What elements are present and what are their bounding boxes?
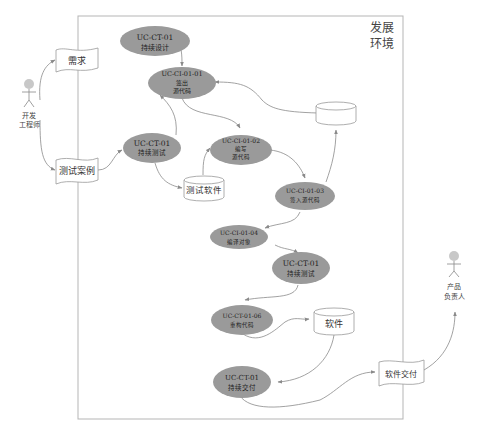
svg-text:持续测试: 持续测试: [138, 148, 166, 157]
svg-text:持续设计: 持续设计: [141, 43, 169, 52]
usecase-ct01-deliver: UC-CT-01 持续交付: [213, 366, 271, 398]
edge-test-checkout: [160, 95, 176, 135]
svg-text:测试案例: 测试案例: [59, 165, 95, 176]
connectors: [40, 36, 455, 407]
doc-software-delivery: 软件交付: [379, 360, 424, 386]
edge-developer-requirements: [40, 60, 55, 100]
svg-text:持续测试: 持续测试: [287, 269, 315, 278]
doc-requirements: 需求: [56, 48, 98, 72]
usecase-ct0106-refactor: UC-CT-01-06 重构代码: [211, 305, 273, 335]
edge-software-deliver: [278, 335, 334, 382]
actor-developer-line2: 工程师: [19, 120, 40, 129]
db-test-software: 测试软件: [184, 176, 224, 201]
edge-checkout-write: [182, 98, 240, 128]
svg-text:持续交付: 持续交付: [228, 383, 256, 392]
edge-checkin-compile: [265, 212, 300, 228]
usecase-ct01-test: UC-CT-01 持续测试: [123, 133, 181, 163]
environment-label-line2: 环境: [370, 36, 394, 51]
edge-testcases-test: [98, 150, 122, 170]
svg-text:UC-CI-01-01: UC-CI-01-01: [161, 70, 202, 78]
edge-repo-checkout: [215, 82, 318, 113]
environment-boundary: [78, 16, 403, 419]
actor-head: [449, 251, 459, 261]
svg-text:UC-CT-01: UC-CT-01: [225, 374, 259, 382]
edge-test-testsoftware: [155, 163, 182, 188]
svg-text:需求: 需求: [68, 55, 86, 66]
actor-developer: 开发 工程师: [19, 79, 40, 129]
usecase-ci0104-compile: UC-CI-01-04 编译对象: [210, 225, 268, 249]
svg-text:编写: 编写: [235, 145, 247, 153]
db-software: 软件: [314, 308, 354, 335]
usecase-ci0103-checkin: UC-CI-01-03 签入源代码: [275, 182, 335, 210]
edge-write-checkin: [270, 150, 305, 178]
edge-test2-refactor: [245, 285, 298, 300]
usecase-ct01-design: UC-CT-01 持续设计: [120, 26, 190, 56]
svg-text:签出: 签出: [176, 79, 188, 87]
doc-test-cases: 测试案例: [56, 158, 98, 184]
svg-text:软件: 软件: [325, 318, 343, 329]
svg-text:UC-CT-01: UC-CT-01: [137, 33, 173, 42]
diagram-canvas: 发展 环境: [0, 0, 478, 427]
svg-text:UC-CT-01: UC-CT-01: [283, 259, 319, 268]
svg-text:UC-CI-01-04: UC-CI-01-04: [220, 229, 258, 236]
actor-head: [24, 79, 34, 89]
environment-label-line1: 发展: [370, 20, 394, 35]
actor-developer-line1: 开发: [22, 111, 36, 120]
svg-text:源代码: 源代码: [232, 153, 250, 161]
svg-text:编译对象: 编译对象: [227, 238, 251, 246]
svg-text:UC-CI-01-02: UC-CI-01-02: [222, 137, 260, 144]
svg-text:软件交付: 软件交付: [385, 369, 417, 379]
svg-text:签入源代码: 签入源代码: [290, 196, 320, 204]
svg-text:UC-CT-01-06: UC-CT-01-06: [223, 312, 262, 319]
actor-owner-line2: 负责人: [444, 292, 465, 301]
edge-softwaredoc-owner: [424, 312, 455, 370]
actor-product-owner: 产品 负责人: [444, 251, 465, 301]
db-source-repo: [316, 102, 356, 125]
edge-checkin-repo: [326, 130, 336, 182]
usecase-ci0102-write: UC-CI-01-02 编写 源代码: [210, 135, 272, 165]
edge-testsoftware-write: [203, 148, 210, 175]
edge-compile-test2: [275, 245, 298, 253]
svg-text:UC-CI-01-03: UC-CI-01-03: [286, 187, 324, 194]
actor-owner-line1: 产品: [447, 282, 461, 291]
svg-text:UC-CT-01: UC-CT-01: [134, 139, 170, 148]
svg-text:源代码: 源代码: [173, 87, 191, 95]
svg-text:重构代码: 重构代码: [230, 321, 254, 329]
usecase-ci0101-checkout: UC-CI-01-01 签出 源代码: [148, 67, 216, 99]
usecase-ct01-test2: UC-CT-01 持续测试: [272, 252, 330, 284]
svg-text:测试软件: 测试软件: [186, 185, 222, 195]
edge-developer-testcases: [40, 120, 55, 170]
